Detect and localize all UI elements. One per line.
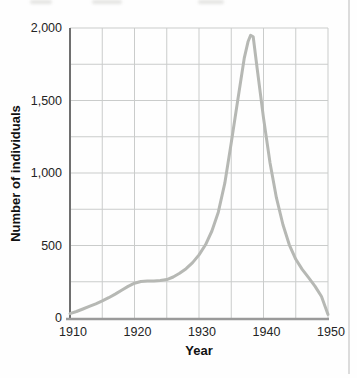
x-tick-label: 1920	[116, 325, 160, 339]
y-tick-label: 1,000	[16, 166, 62, 180]
x-tick-label: 1930	[180, 325, 224, 339]
y-tick-label: 1,500	[16, 94, 62, 108]
x-tick-label: 1950	[309, 325, 353, 339]
x-tick-label: 1940	[245, 325, 289, 339]
y-tick-label: 500	[16, 239, 62, 253]
x-tick-label: 1910	[51, 325, 95, 339]
population-line-chart-figure: Number of individuals Year 05001,0001,50…	[0, 0, 357, 378]
y-tick-label: 2,000	[16, 21, 62, 35]
page-edge-line	[348, 0, 350, 374]
x-axis-title: Year	[129, 343, 269, 358]
y-tick-label: 0	[16, 311, 62, 325]
